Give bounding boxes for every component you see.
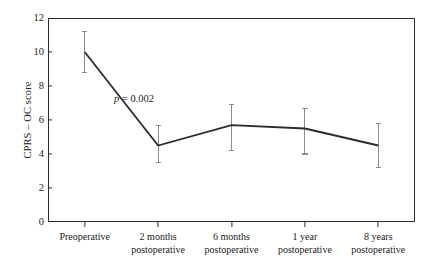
y-tick-mark (48, 119, 52, 120)
y-tick-label: 12 (0, 13, 44, 24)
chart-figure: CPRS – OC score 024681012 Preoperative2 … (0, 0, 439, 276)
y-tick-label: 4 (0, 149, 44, 160)
x-tick-mark (84, 222, 85, 227)
y-axis-tick-labels: 024681012 (0, 18, 44, 222)
y-tick-label: 8 (0, 81, 44, 92)
x-tick-mark (231, 222, 232, 227)
x-tick-mark (378, 222, 379, 227)
y-tick-label: 6 (0, 115, 44, 126)
y-tick-mark (48, 51, 52, 52)
y-tick-label: 2 (0, 183, 44, 194)
x-tick-mark (158, 222, 159, 227)
y-tick-label: 0 (0, 217, 44, 228)
p-value-annotation: p = 0.002 (114, 93, 154, 104)
plot-area (48, 18, 415, 222)
x-tick-label: 8 yearspostoperative (328, 231, 428, 256)
y-tick-mark (48, 85, 52, 86)
y-tick-mark (48, 153, 52, 154)
y-tick-label: 10 (0, 47, 44, 58)
p-value-number: = 0.002 (119, 93, 154, 104)
y-tick-mark (48, 187, 52, 188)
x-tick-label-line: 8 years (328, 231, 428, 244)
x-tick-mark (304, 222, 305, 227)
x-tick-label-line: postoperative (328, 244, 428, 257)
